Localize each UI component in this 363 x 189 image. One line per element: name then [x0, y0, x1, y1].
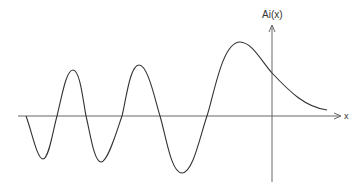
y-axis-label: Ai(x) [262, 9, 283, 20]
airy-curve [26, 42, 327, 173]
airy-function-plot: Ai(x) x [0, 0, 363, 189]
x-axis-label: x [344, 111, 349, 121]
